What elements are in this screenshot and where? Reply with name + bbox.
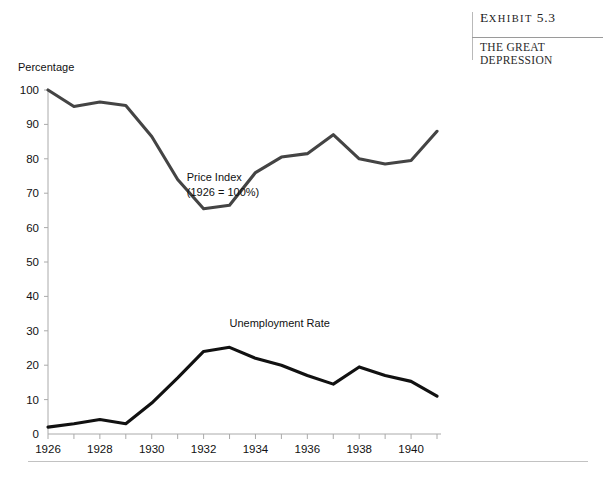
x-tick-label: 1934 [243, 443, 269, 455]
y-tick-label: 30 [26, 325, 39, 337]
page-bottom-rule [28, 461, 588, 462]
price-index-annotation-line2: (1926 = 100%) [187, 186, 259, 198]
y-tick-label: 10 [26, 394, 39, 406]
y-tick-label: 0 [33, 428, 39, 440]
x-tick-label: 1936 [295, 443, 321, 455]
y-tick-label: 90 [26, 118, 39, 130]
chart: Percentage 01020304050607080901001926192… [0, 0, 613, 479]
y-tick-label: 40 [26, 290, 39, 302]
y-tick-label: 80 [26, 153, 39, 165]
x-tick-label: 1928 [87, 443, 113, 455]
y-axis-title: Percentage [18, 61, 74, 73]
y-tick-label: 100 [20, 84, 39, 96]
x-tick-label: 1940 [398, 443, 424, 455]
x-tick-label: 1932 [191, 443, 217, 455]
y-tick-label: 50 [26, 256, 39, 268]
y-tick-label: 60 [26, 222, 39, 234]
x-tick-label: 1938 [346, 443, 372, 455]
x-tick-label: 1930 [139, 443, 165, 455]
y-tick-label: 70 [26, 187, 39, 199]
exhibit-page: EXHIBIT 5.3 THE GREAT DEPRESSION Percent… [0, 0, 613, 479]
price-index-annotation-line1: Price Index [187, 171, 243, 183]
chart-plot-svg: 0102030405060708090100192619281930193219… [0, 0, 613, 479]
x-tick-label: 1926 [35, 443, 61, 455]
unemployment-rate-annotation: Unemployment Rate [230, 317, 330, 329]
unemployment-rate-line [48, 347, 437, 427]
y-tick-label: 20 [26, 359, 39, 371]
